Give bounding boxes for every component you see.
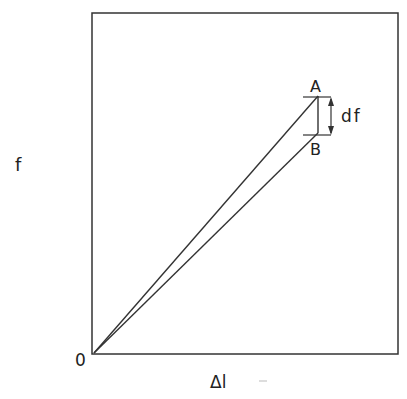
point-a-label: A — [310, 77, 321, 96]
x-axis-label: Δl — [210, 372, 226, 392]
point-b-label: B — [310, 140, 321, 159]
df-arrow-head-up — [328, 97, 334, 106]
diagram-canvas: A B df f 0 Δl — [0, 0, 407, 399]
df-arrow-head-down — [328, 126, 334, 135]
y-axis-label: f — [15, 154, 22, 175]
line-origin-to-b — [94, 133, 318, 353]
df-label: df — [341, 106, 362, 126]
origin-label: 0 — [75, 350, 86, 370]
line-origin-to-a — [94, 96, 318, 353]
